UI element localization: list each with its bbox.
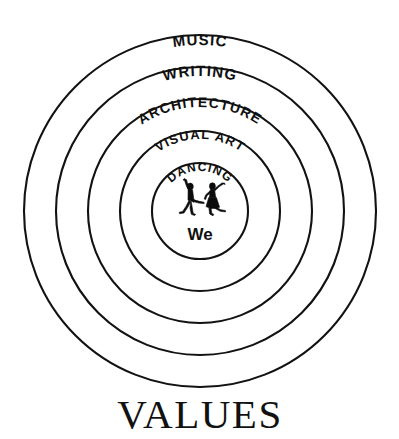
dancer-left-joining-arm [193,200,204,204]
dancer-right-torso [209,190,215,198]
dancer-right-figure [204,183,225,216]
ring-label-dancing: DANCING [164,160,236,185]
ring-circle-music [24,35,376,387]
ring-label-music-text: MUSIC [171,31,228,50]
dancer-right-leg-right [215,207,225,212]
dancing-couple-icon [179,179,225,216]
ring-label-architecture-text: ARCHITECTURE [135,94,265,127]
diagram-canvas: MUSIC WRITING ARCHITECTURE VISUAL ART DA… [0,0,399,439]
dancer-left-leg-front [179,200,190,214]
dancer-left-figure [179,179,204,216]
ring-label-writing: WRITING [161,62,239,84]
ring-label-writing-text: WRITING [161,62,239,84]
diagram-title-values: VALUES [117,391,282,437]
ring-label-dancing-text: DANCING [164,160,236,185]
ring-circle-writing [56,67,344,355]
values-concentric-diagram: MUSIC WRITING ARCHITECTURE VISUAL ART DA… [0,0,399,439]
center-label-we: We [187,225,212,244]
dancer-right-skirt [206,197,220,208]
ring-circle-dancing [152,163,248,259]
dancer-right-leg-left [209,208,214,216]
dancer-left-leg-back [190,200,196,216]
ring-label-visual-art-text: VISUAL ART [152,127,248,155]
ring-label-visual-art: VISUAL ART [152,127,248,155]
ring-label-music: MUSIC [171,31,228,50]
ring-label-architecture: ARCHITECTURE [135,94,265,127]
ring-circle-visual-art [120,131,280,291]
